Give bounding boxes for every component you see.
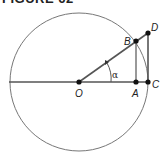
label-d: D <box>151 22 158 33</box>
label-c: C <box>152 79 160 90</box>
angle-arc-icon <box>107 63 111 82</box>
point-a <box>133 79 138 84</box>
angle-label-alpha: α <box>112 70 118 80</box>
point-c <box>145 79 150 84</box>
label-b: B <box>124 36 131 47</box>
label-o: O <box>75 88 83 99</box>
unit-circle-diagram: O A C B D α <box>0 0 163 152</box>
point-b <box>133 38 138 43</box>
point-o <box>76 79 81 84</box>
label-a: A <box>131 88 139 99</box>
point-d <box>145 30 150 35</box>
